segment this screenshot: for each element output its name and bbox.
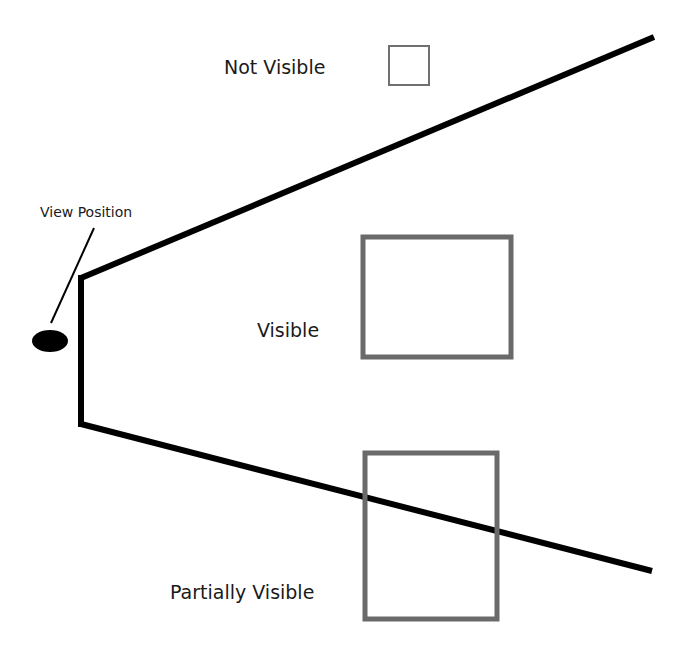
visible-label: Visible xyxy=(257,319,319,341)
box-partially-visible xyxy=(365,453,497,619)
view-position-label: View Position xyxy=(40,204,132,220)
box-not-visible xyxy=(389,46,429,85)
partially-visible-label: Partially Visible xyxy=(170,581,314,603)
box-visible xyxy=(363,237,511,357)
not-visible-label: Not Visible xyxy=(224,56,325,78)
frustum-top-edge xyxy=(81,37,654,278)
frustum-culling-diagram xyxy=(0,0,690,659)
view-position-marker xyxy=(32,330,68,352)
